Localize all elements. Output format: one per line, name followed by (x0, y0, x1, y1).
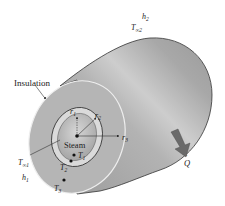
insulated-pipe-diagram: Insulation Steam r1 r2 r3 T1 T2 T3 T∞1 h… (0, 0, 225, 206)
tinf1-label: T∞1 (18, 158, 29, 168)
tinf2-label: T∞2 (131, 23, 142, 33)
t1-dot (72, 153, 75, 156)
h1-label: h1 (22, 173, 29, 183)
steam-label: Steam (64, 140, 86, 150)
t2-dot (69, 159, 72, 162)
t3-dot (62, 178, 65, 181)
q-dot: · (186, 152, 188, 160)
insulation-label: Insulation (14, 78, 50, 88)
h2-label: h2 (142, 12, 149, 22)
center-dot (75, 134, 79, 138)
insulation-dot (44, 97, 46, 99)
